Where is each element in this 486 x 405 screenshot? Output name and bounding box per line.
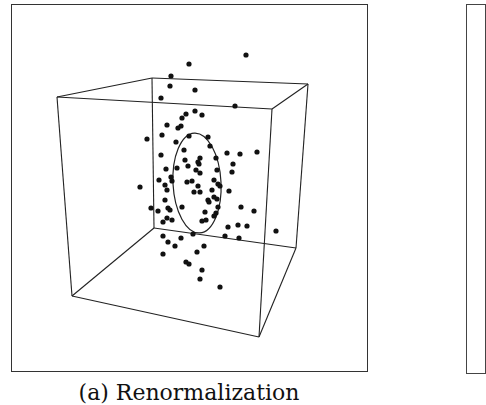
cube-front-edge: [72, 296, 259, 337]
data-point: [169, 217, 174, 222]
data-point: [189, 178, 194, 183]
data-point: [215, 204, 220, 209]
data-point: [197, 189, 202, 194]
data-point: [158, 152, 163, 157]
data-point: [229, 169, 234, 174]
cube-back-edge: [152, 78, 154, 228]
data-point: [225, 224, 230, 229]
data-point: [181, 147, 186, 152]
data-point: [185, 163, 190, 168]
data-point: [195, 183, 200, 188]
data-point: [155, 208, 160, 213]
cube-front-edge: [57, 97, 272, 109]
data-point: [194, 249, 199, 254]
data-point: [236, 235, 241, 240]
data-point: [226, 188, 231, 193]
data-point: [167, 207, 172, 212]
data-point: [201, 243, 206, 248]
data-point: [243, 52, 248, 57]
cube-depth-edge: [259, 248, 296, 337]
data-point: [238, 204, 243, 209]
data-point: [273, 228, 278, 233]
data-point: [167, 83, 172, 88]
data-point: [168, 73, 173, 78]
data-point: [207, 143, 212, 148]
data-point: [235, 222, 240, 227]
cube-back-edge: [152, 78, 308, 84]
data-point: [186, 133, 191, 138]
data-point: [211, 177, 216, 182]
cube-depth-edge: [72, 228, 154, 296]
data-point: [237, 151, 242, 156]
data-point: [137, 184, 142, 189]
data-point: [199, 267, 204, 272]
data-point: [202, 209, 207, 214]
cube-back-edge: [296, 84, 308, 248]
data-point: [222, 233, 227, 238]
data-point: [251, 208, 256, 213]
data-point: [173, 139, 178, 144]
data-point: [182, 157, 187, 162]
data-point: [184, 179, 189, 184]
cube-depth-edge: [57, 78, 152, 97]
data-point: [160, 251, 165, 256]
cube-front-edge: [259, 109, 272, 337]
data-point: [196, 161, 201, 166]
data-point: [224, 150, 229, 155]
data-point: [214, 167, 219, 172]
data-point: [192, 108, 197, 113]
data-point: [163, 166, 168, 171]
cube-depth-edge: [272, 84, 308, 109]
data-point: [192, 87, 197, 92]
data-point: [164, 215, 169, 220]
data-point: [160, 233, 165, 238]
data-point: [203, 217, 208, 222]
data-point: [232, 103, 237, 108]
data-point: [172, 243, 177, 248]
data-point: [217, 284, 222, 289]
data-point: [191, 189, 196, 194]
data-point: [162, 182, 167, 187]
data-point: [175, 125, 180, 130]
data-point: [164, 122, 169, 127]
data-point: [211, 213, 216, 218]
data-point: [183, 111, 188, 116]
data-point: [179, 115, 184, 120]
data-point: [230, 161, 235, 166]
data-point: [169, 178, 174, 183]
figure-caption: (a) Renormalization: [0, 380, 378, 405]
data-point: [254, 149, 259, 154]
data-point: [206, 199, 211, 204]
data-point: [160, 219, 165, 224]
data-point: [159, 132, 164, 137]
data-point: [178, 235, 183, 240]
data-point: [158, 95, 163, 100]
data-point: [148, 205, 153, 210]
data-point: [199, 112, 204, 117]
data-point: [164, 187, 169, 192]
cube-front-edge: [57, 97, 72, 296]
data-point: [186, 61, 191, 66]
data-point: [190, 231, 195, 236]
data-point: [165, 239, 170, 244]
data-point: [244, 223, 249, 228]
data-point: [213, 155, 218, 160]
data-point: [186, 261, 191, 266]
data-point: [197, 170, 202, 175]
data-point: [209, 187, 214, 192]
data-point: [162, 197, 167, 202]
data-point: [197, 276, 202, 281]
data-point: [174, 165, 179, 170]
data-point: [205, 134, 210, 139]
data-point: [144, 136, 149, 141]
data-point: [179, 204, 184, 209]
data-point: [214, 196, 219, 201]
data-point: [217, 183, 222, 188]
data-point: [156, 177, 161, 182]
